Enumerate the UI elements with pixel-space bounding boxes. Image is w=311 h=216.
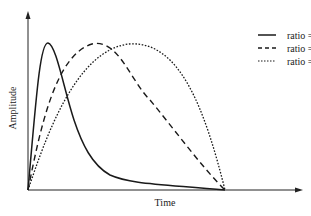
series-ratio-0.1 (28, 43, 225, 190)
y-axis-arrow-icon (26, 11, 31, 19)
legend: ratio = 0.1 ratio = 0.3 ratio = 0.5 (258, 30, 311, 67)
chart-svg: ratio = 0.1 ratio = 0.3 ratio = 0.5 Time… (0, 0, 311, 216)
x-axis-label: Time (155, 197, 176, 208)
x-axis-arrow-icon (295, 188, 303, 193)
legend-label-2: ratio = 0.5 (287, 56, 311, 67)
legend-label-0: ratio = 0.1 (287, 30, 311, 41)
y-axis-label: Amplitude (7, 86, 18, 129)
series-ratio-0.3 (28, 43, 225, 190)
legend-label-1: ratio = 0.3 (287, 43, 311, 54)
series-ratio-0.5 (28, 44, 225, 190)
chart: ratio = 0.1 ratio = 0.3 ratio = 0.5 Time… (0, 0, 311, 216)
